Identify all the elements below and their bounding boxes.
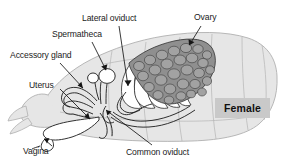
spermatheca-accessory-lobe <box>88 73 99 83</box>
label-ovary: Ovary <box>194 12 216 22</box>
diagram-figure: Lateral oviduct Ovary Spermatheca Access… <box>0 0 282 162</box>
spermatheca-sac <box>99 69 115 84</box>
sex-badge: Female <box>215 98 270 118</box>
label-uterus: Uterus <box>29 80 54 90</box>
label-vagina: Vagina <box>23 146 49 156</box>
label-common-oviduct: Common oviduct <box>126 147 189 157</box>
label-lateral-oviduct: Lateral oviduct <box>82 13 136 23</box>
label-spermatheca: Spermatheca <box>52 29 102 39</box>
label-accessory-gland: Accessory gland <box>10 50 72 60</box>
